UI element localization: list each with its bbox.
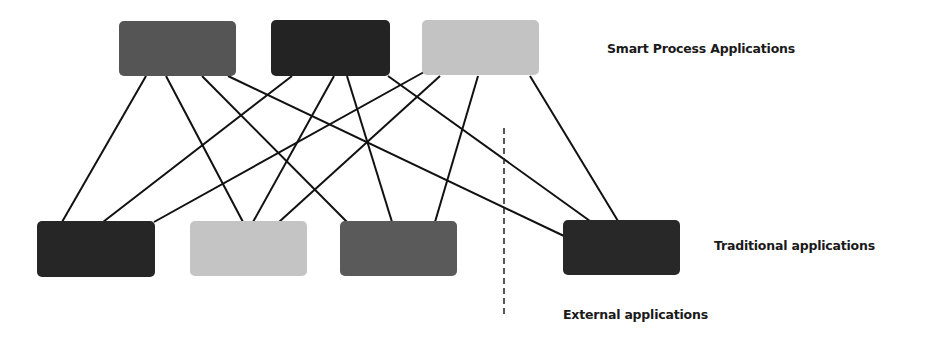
smart-process-applications-label: Smart Process Applications xyxy=(607,41,795,56)
external-app-node-1 xyxy=(563,220,680,275)
edge-spa2-trad1 xyxy=(103,76,292,222)
connection-lines xyxy=(62,72,618,236)
traditional-app-node-2 xyxy=(190,221,307,276)
smart-app-node-2 xyxy=(271,20,390,76)
edge-spa3-ext1 xyxy=(530,76,618,221)
edge-spa3-trad3 xyxy=(435,76,478,222)
smart-app-node-1 xyxy=(119,21,236,76)
traditional-app-node-1 xyxy=(37,221,155,277)
smart-app-node-3 xyxy=(422,20,539,75)
edge-spa2-trad3 xyxy=(347,76,392,222)
traditional-app-node-3 xyxy=(340,221,457,276)
traditional-applications-label: Traditional applications xyxy=(714,238,875,253)
edge-spa1-ext1 xyxy=(228,76,564,236)
edge-spa3-trad1 xyxy=(154,72,424,222)
edge-spa3-trad2 xyxy=(279,76,440,222)
edge-spa1-trad1 xyxy=(62,76,146,222)
external-applications-label: External applications xyxy=(563,307,708,322)
edge-spa1-trad2 xyxy=(166,76,243,222)
